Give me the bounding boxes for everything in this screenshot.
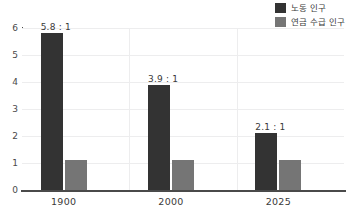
bar-wrapper bbox=[65, 160, 87, 190]
gridline bbox=[237, 28, 238, 190]
bar-wrapper: 2.1 : 1 bbox=[255, 133, 277, 190]
x-axis-tick-label: 2025 bbox=[266, 196, 291, 207]
plot-area: 0123456 5.8 : 13.9 : 12.1 : 1 bbox=[22, 28, 344, 190]
bar-wrapper bbox=[172, 160, 194, 190]
bar-data-label: 3.9 : 1 bbox=[148, 75, 178, 84]
bar-pension-population bbox=[65, 160, 87, 190]
bar-group: 2.1 : 1 bbox=[255, 133, 301, 190]
bar-chart: 노동 인구 연금 수급 인구 0123456 5.8 : 13.9 : 12.1… bbox=[0, 0, 349, 217]
y-axis-tick-label: 0 bbox=[12, 186, 18, 195]
legend-item-pension-population: 연금 수급 인구 bbox=[275, 16, 345, 27]
bar-wrapper bbox=[279, 160, 301, 190]
bar-wrapper: 3.9 : 1 bbox=[148, 85, 170, 190]
bar-pension-population bbox=[279, 160, 301, 190]
y-axis-tick-label: 3 bbox=[12, 105, 18, 114]
bar-group: 3.9 : 1 bbox=[148, 85, 194, 190]
x-axis-tick-label: 1900 bbox=[51, 196, 76, 207]
legend-label: 연금 수급 인구 bbox=[291, 17, 345, 27]
legend-item-working-population: 노동 인구 bbox=[275, 2, 326, 13]
legend-label: 노동 인구 bbox=[291, 3, 326, 13]
gridline bbox=[129, 28, 130, 190]
bar-working-population bbox=[255, 133, 277, 190]
x-axis-tick-label: 2000 bbox=[158, 196, 183, 207]
y-axis-tick-label: 1 bbox=[12, 159, 18, 168]
y-axis-tick-label: 2 bbox=[12, 132, 18, 141]
legend-swatch-icon bbox=[275, 17, 286, 27]
y-axis-tick-label: 4 bbox=[12, 78, 18, 87]
chart-legend: 노동 인구 연금 수급 인구 bbox=[275, 2, 345, 27]
y-axis-tick-label: 6 bbox=[12, 24, 18, 33]
bar-working-population bbox=[41, 33, 63, 190]
bar-working-population bbox=[148, 85, 170, 190]
bar-data-label: 2.1 : 1 bbox=[255, 123, 285, 132]
bar-pension-population bbox=[172, 160, 194, 190]
x-axis-line bbox=[21, 190, 346, 192]
legend-swatch-icon bbox=[275, 3, 286, 13]
bar-data-label: 5.8 : 1 bbox=[41, 23, 71, 32]
y-axis-tick-label: 5 bbox=[12, 51, 18, 60]
bar-group: 5.8 : 1 bbox=[41, 33, 87, 190]
bar-wrapper: 5.8 : 1 bbox=[41, 33, 63, 190]
